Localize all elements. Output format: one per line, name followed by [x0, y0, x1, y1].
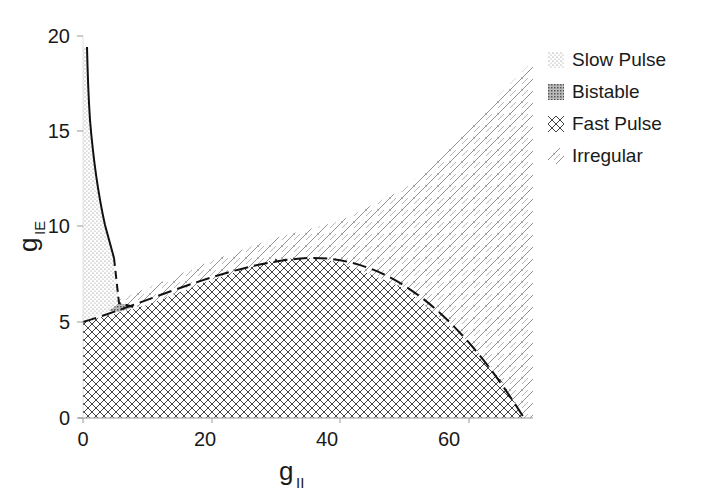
dense-grid-pattern-icon	[548, 84, 564, 100]
y-tick-label-20: 20	[48, 25, 70, 47]
legend-item-slow-pulse: Slow Pulse	[548, 44, 666, 76]
y-axis-label: g IE	[13, 221, 48, 252]
legend: Slow Pulse Bistable Fast Pulse Irregular	[548, 44, 666, 172]
x-axis-label: g II	[279, 456, 304, 491]
x-tick-label-20: 20	[194, 428, 216, 450]
svg-text:g: g	[13, 238, 43, 252]
dots-pattern-icon	[548, 52, 564, 68]
y-tick-label-10: 10	[48, 215, 70, 237]
x-tick-label-0: 0	[77, 428, 88, 450]
legend-label: Bistable	[572, 81, 640, 103]
svg-text:IE: IE	[31, 221, 48, 235]
y-ticks	[77, 36, 83, 418]
legend-item-irregular: Irregular	[548, 140, 666, 172]
legend-label: Fast Pulse	[572, 113, 662, 135]
y-tick-label-5: 5	[59, 311, 70, 333]
legend-label: Slow Pulse	[572, 49, 666, 71]
legend-item-bistable: Bistable	[548, 76, 666, 108]
svg-text:II: II	[296, 474, 304, 491]
x-tick-label-40: 40	[316, 428, 338, 450]
x-ticks	[83, 418, 469, 423]
y-tick-label-0: 0	[59, 407, 70, 429]
legend-item-fast-pulse: Fast Pulse	[548, 108, 666, 140]
y-tick-label-15: 15	[48, 120, 70, 142]
svg-text:g: g	[279, 456, 293, 486]
crosshatch-pattern-icon	[548, 116, 564, 132]
diagonal-pattern-icon	[548, 148, 564, 164]
legend-label: Irregular	[572, 145, 643, 167]
x-tick-label-60: 60	[438, 428, 460, 450]
